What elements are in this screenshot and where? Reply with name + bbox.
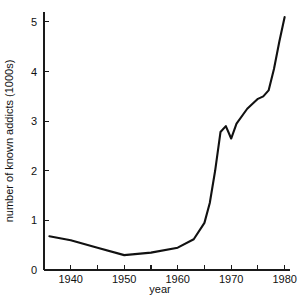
x-tick-label-1980: 1980	[272, 273, 296, 285]
y-tick-label-0: 0	[31, 264, 37, 276]
x-tick-label-1970: 1970	[219, 273, 243, 285]
x-tick-label-1940: 1940	[58, 273, 82, 285]
y-tick-label-2: 2	[31, 165, 37, 177]
data-line-known-addicts	[49, 17, 284, 255]
y-tick-label-1: 1	[31, 214, 37, 226]
y-axis: 012345	[31, 12, 49, 276]
chart-container: 012345 19401950196019701980 year number …	[0, 0, 302, 307]
y-axis-tick-labels: 012345	[31, 16, 37, 276]
y-tick-label-5: 5	[31, 16, 37, 28]
y-axis-title: number of known addicts (1000s)	[3, 60, 15, 223]
x-axis-ticks	[44, 265, 285, 270]
y-tick-label-4: 4	[31, 66, 37, 78]
data-series-group	[49, 17, 284, 255]
line-chart: 012345 19401950196019701980 year number …	[0, 0, 302, 307]
x-tick-label-1950: 1950	[112, 273, 136, 285]
y-axis-ticks	[44, 22, 49, 270]
x-axis: 19401950196019701980	[44, 265, 297, 285]
y-tick-label-3: 3	[31, 115, 37, 127]
x-axis-tick-labels: 19401950196019701980	[58, 273, 296, 285]
x-axis-title: year	[149, 283, 171, 295]
